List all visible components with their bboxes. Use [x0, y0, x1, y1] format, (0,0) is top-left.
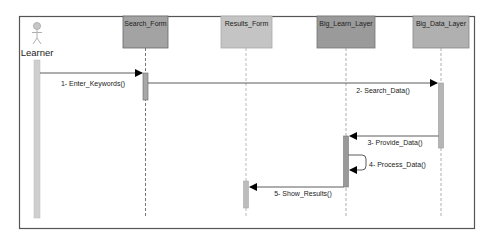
- message-label: 1- Enter_Keywords(): [61, 80, 125, 88]
- activation-bar: [143, 73, 148, 100]
- participant-label: Results_Form: [225, 20, 269, 28]
- activation-bar: [244, 181, 249, 208]
- actor-label: Learner: [21, 47, 54, 58]
- message-label: 3- Provide_Data(): [367, 139, 422, 147]
- activation-bar: [439, 83, 444, 148]
- message-label: 4- Process_Data(): [369, 161, 426, 169]
- sequence-diagram: Learner Search_Form Results_Form Big_Lea…: [0, 0, 489, 236]
- participant-label: Big_Learn_Layer: [319, 20, 373, 28]
- participant-label: Big_Data_Layer: [416, 20, 467, 28]
- participant-label: Search_Form: [124, 20, 167, 28]
- message-label: 5- Show_Results(): [274, 190, 332, 198]
- actor-activation-bar: [34, 60, 40, 218]
- activation-bar: [344, 136, 349, 187]
- message-label: 2- Search_Data(): [356, 87, 410, 95]
